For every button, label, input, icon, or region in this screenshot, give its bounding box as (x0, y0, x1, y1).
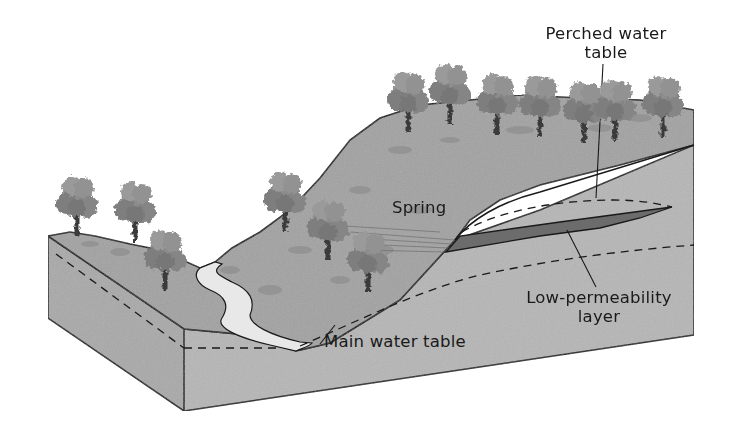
label-perched-line2: table (538, 43, 674, 62)
label-perched-line1: Perched water (538, 24, 674, 43)
tree-icon (114, 182, 156, 242)
label-low-permeability-layer: Low-permeability layer (518, 288, 680, 326)
groundwater-block-diagram (0, 0, 734, 442)
label-perched-water-table: Perched water table (538, 24, 674, 62)
tree-icon (56, 176, 98, 236)
label-main-water-table: Main water table (324, 332, 466, 351)
label-low-perm-line2: layer (518, 307, 680, 326)
label-spring: Spring (392, 198, 446, 217)
label-low-perm-line1: Low-permeability (518, 288, 680, 307)
